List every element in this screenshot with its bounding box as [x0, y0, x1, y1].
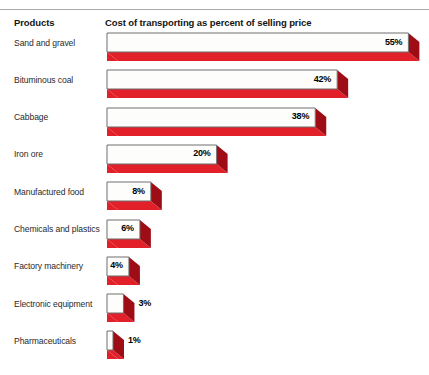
bar-value-label: 55% [380, 37, 402, 47]
bar-value-label: 42% [309, 74, 331, 84]
bar-3d [0, 32, 425, 66]
bar-3d [0, 69, 354, 103]
bar-3d [0, 330, 130, 364]
bar-value-label: 6% [112, 223, 134, 233]
column-header-products: Products [14, 17, 54, 28]
bar-value-label: 38% [287, 111, 309, 121]
column-header-metric: Cost of transporting as percent of selli… [105, 17, 311, 28]
bar-value-label: 1% [128, 335, 141, 345]
bar-3d [0, 256, 146, 290]
top-divider-rule [0, 9, 429, 10]
bar-value-label: 8% [123, 186, 145, 196]
bar-3d [0, 107, 332, 141]
chart-page: Products Cost of transporting as percent… [0, 0, 429, 375]
bar-3d [0, 293, 140, 327]
bar-value-label: 3% [138, 298, 151, 308]
bar-value-label: 20% [189, 148, 211, 158]
bar-value-label: 4% [101, 260, 123, 270]
